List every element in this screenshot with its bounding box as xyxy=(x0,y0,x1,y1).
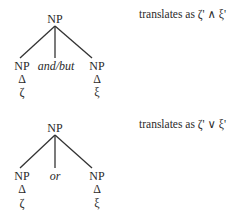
disjunction-label: or xyxy=(40,170,70,182)
left-triangle: Δ xyxy=(12,183,32,195)
conjunction-label: and/but xyxy=(35,60,77,72)
edge-left-2 xyxy=(20,135,55,168)
translation-text: translates as ζ' ∨ ξ' xyxy=(139,118,226,130)
right-triangle: Δ xyxy=(87,183,107,195)
right-leaf: ξ xyxy=(87,197,107,209)
root-np: NP xyxy=(45,122,65,134)
left-np: NP xyxy=(12,60,32,72)
root-np: NP xyxy=(45,13,65,25)
left-triangle: Δ xyxy=(12,73,32,85)
edge-right-1 xyxy=(55,26,92,58)
left-leaf: ζ xyxy=(12,86,32,98)
left-leaf: ζ xyxy=(12,197,32,209)
edge-left-1 xyxy=(20,26,55,58)
translation-text: translates as ζ' ∧ ξ' xyxy=(139,8,226,20)
edge-right-2 xyxy=(55,135,92,168)
right-np: NP xyxy=(87,60,107,72)
right-triangle: Δ xyxy=(87,73,107,85)
right-leaf: ξ xyxy=(87,86,107,98)
right-np: NP xyxy=(87,170,107,182)
tree-edges xyxy=(0,0,238,222)
left-np: NP xyxy=(12,170,32,182)
